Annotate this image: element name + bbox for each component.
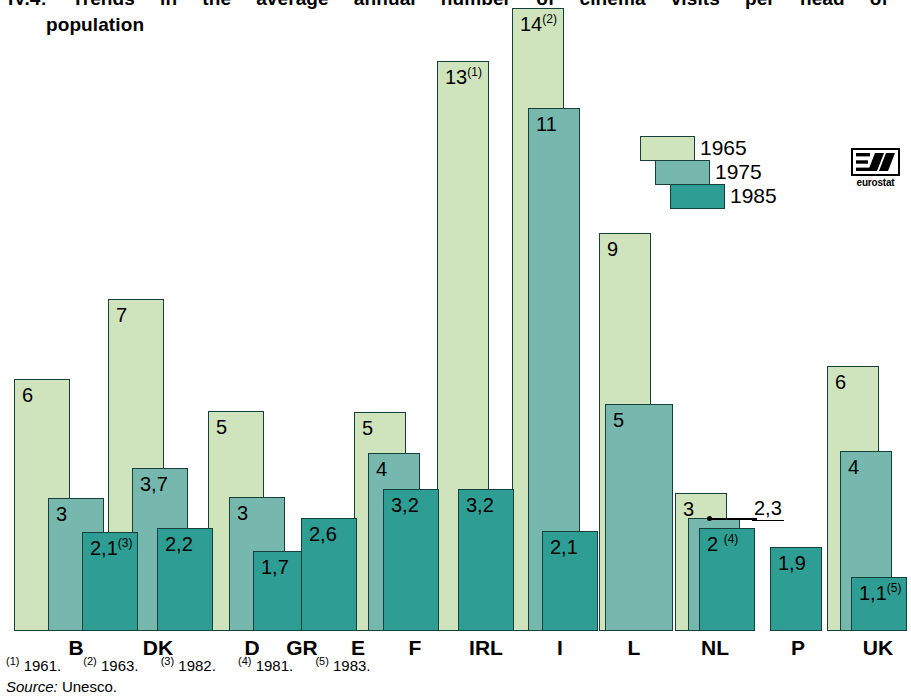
bar-value-label: 2,1 xyxy=(550,537,578,557)
footnote-marker: (5) xyxy=(887,581,902,595)
bar-value-label: 3 xyxy=(56,504,67,524)
category-label-I: I xyxy=(530,636,590,660)
legend-label-1975: 1975 xyxy=(715,159,762,184)
bar-value-label: 3 xyxy=(683,499,694,519)
bar-UK-1985: 1,1(5) xyxy=(851,577,907,631)
bar-value-label: 9 xyxy=(607,239,618,259)
bar-value-label: 6 xyxy=(835,372,846,392)
category-label-P: P xyxy=(768,636,828,660)
bar-value-label: 2,3 xyxy=(752,497,784,521)
bar-IRL-1985: 3,2 xyxy=(458,489,514,631)
legend-swatch-1975 xyxy=(655,160,710,185)
bar-value-label: 3,7 xyxy=(140,474,168,494)
cinema-visits-chart: IV.4: Trends in the average annual numbe… xyxy=(0,0,911,699)
bar-value-label: 5 xyxy=(362,418,373,438)
category-label-F: F xyxy=(385,636,445,660)
bar-I-1985: 2,1 xyxy=(542,531,598,631)
legend-swatch-1985 xyxy=(670,184,725,209)
eurostat-wordmark: eurostat xyxy=(851,177,900,188)
bar-value-label: 3,2 xyxy=(391,495,419,515)
bar-value-label: 6 xyxy=(22,385,33,405)
bar-value-label: 13(1) xyxy=(445,67,482,87)
source-line: Source: Unesco. xyxy=(6,678,117,696)
category-label-IRL: IRL xyxy=(451,636,521,660)
bar-value-label: 2 (4) xyxy=(707,534,738,554)
footnote-marker: (2) xyxy=(542,12,557,26)
bar-value-label: 3,2 xyxy=(466,495,494,515)
source-text: Unesco. xyxy=(62,678,117,695)
bar-value-label: 2,2 xyxy=(165,534,193,554)
bar-value-label: 11 xyxy=(536,114,557,134)
bar-value-label: 1,9 xyxy=(778,553,806,573)
footnotes: (1) 1961. (2) 1963. (3) 1982. (4) 1981. … xyxy=(6,656,389,675)
category-label-L: L xyxy=(604,636,664,660)
footnote-1: (1) 1961. xyxy=(6,657,61,674)
footnote-marker: (3) xyxy=(118,536,133,550)
bar-value-label: 2,6 xyxy=(309,524,337,544)
footnote-marker: (1) xyxy=(467,65,482,79)
nl-1975-leader-dot xyxy=(707,516,712,521)
source-label: Source: xyxy=(6,678,58,695)
bar-NL-1985: 2 (4) xyxy=(699,528,755,631)
legend-label-1985: 1985 xyxy=(730,183,777,208)
nl-1975-value-callout: 2,3 xyxy=(752,498,784,518)
legend-label-1965: 1965 xyxy=(700,135,747,160)
nl-1975-leader-line xyxy=(709,518,757,520)
legend-swatch-1965 xyxy=(640,136,695,161)
bar-value-label: 3 xyxy=(237,503,248,523)
footnote-3: (3) 1982. xyxy=(161,657,216,674)
eurostat-logo: eurostat xyxy=(851,148,900,188)
bar-P-1985: 1,9 xyxy=(770,547,822,631)
bar-value-label: 14(2) xyxy=(520,14,557,34)
category-label-NL: NL xyxy=(685,636,745,660)
bar-L-1975: 5 xyxy=(605,404,673,631)
bar-E-1985: 2,6 xyxy=(301,518,357,631)
footnote-5: (5) 1983. xyxy=(315,657,370,674)
bar-value-label: 4 xyxy=(848,457,859,477)
bar-value-label: 7 xyxy=(116,305,127,325)
bar-DK-1985: 2,2 xyxy=(157,528,213,631)
footnote-2: (2) 1963. xyxy=(83,657,138,674)
bar-value-label: 5 xyxy=(613,410,624,430)
bar-value-label: 2,1(3) xyxy=(90,538,132,558)
bar-value-label: 1,1(5) xyxy=(859,583,901,603)
category-label-UK: UK xyxy=(843,636,911,660)
bar-F-1985: 3,2 xyxy=(383,489,439,631)
plot-area: 6 3 2,1(3) 7 3,7 2,2 5 3 1,7 2,6 xyxy=(0,0,911,631)
bar-B-1985: 2,1(3) xyxy=(82,532,138,631)
bar-value-label: 5 xyxy=(216,417,227,437)
eurostat-logo-icon xyxy=(851,148,900,176)
footnote-4: (4) 1981. xyxy=(238,657,293,674)
footnote-marker: (4) xyxy=(724,532,739,546)
bar-value-label: 4 xyxy=(376,459,387,479)
bar-value-label: 1,7 xyxy=(261,557,289,577)
